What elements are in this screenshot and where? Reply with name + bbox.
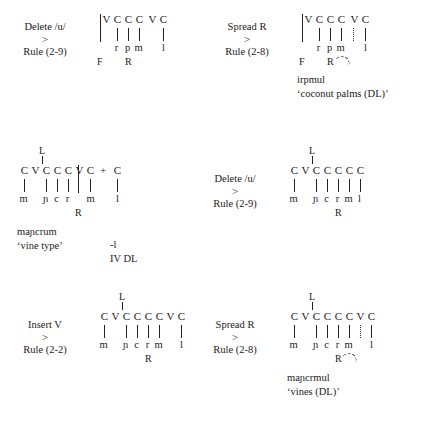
segment: l: [159, 43, 168, 54]
suffix-annotation-step-3: -l IV DL: [110, 238, 138, 266]
skeleton-slot: C: [312, 165, 321, 176]
association-line: [159, 325, 160, 338]
skeleton-slot: C: [64, 165, 73, 176]
rule-arrow-icon: >: [196, 185, 274, 198]
skeleton-slot: C: [326, 14, 335, 25]
segment: m: [134, 43, 143, 54]
segment: m: [154, 340, 163, 351]
association-line: [163, 28, 164, 41]
segment: c: [322, 194, 331, 205]
skeleton-slot: V: [356, 311, 365, 322]
association-line: [78, 165, 79, 193]
tier-stem: [42, 156, 43, 164]
rule-name: Spread R: [196, 319, 274, 331]
association-line: [68, 179, 69, 192]
skeleton-slot: V: [111, 311, 120, 322]
segment: ɲ: [311, 194, 320, 205]
rule-label-step-1: Delete /u/ > Rule (2-9): [6, 8, 84, 59]
segment: r: [333, 194, 342, 205]
association-line: [90, 179, 91, 192]
segment: m: [344, 340, 353, 351]
concatenation-plus: +: [100, 165, 106, 176]
segment: m: [19, 194, 28, 205]
derivation-step-3: L C V C C C V C + C: [16, 146, 196, 253]
skeleton-tier-step-6: C V C C C C V C: [286, 311, 411, 324]
rule-label-step-2: Spread R > Rule (2-8): [208, 8, 286, 59]
top-tier-step-4: L: [286, 146, 396, 165]
rule-name: Delete /u/: [196, 173, 274, 185]
tier-marker-r: R: [335, 208, 342, 218]
association-lines-step-6: [286, 324, 411, 340]
segment: l: [355, 194, 364, 205]
surface-form: maɲcrum: [17, 225, 196, 239]
skeleton-tier-step-3: C V C C C V C + C: [16, 165, 196, 178]
segment: l: [361, 43, 370, 54]
skeleton-slot: C: [345, 165, 354, 176]
tier-marker-l: L: [309, 292, 315, 302]
skeleton-slot: C: [155, 311, 164, 322]
segment: ɲ: [121, 340, 130, 351]
suffix-morpheme: -l: [110, 238, 138, 252]
skeleton-slot: C: [144, 311, 153, 322]
association-line: [360, 179, 361, 192]
association-line: [128, 28, 129, 41]
tier-marker-r: R: [75, 208, 82, 218]
diagram-step-4: L C V C C C C C m ɲ: [286, 146, 396, 222]
diagram-step-2: V C C C V C r p m l F: [296, 8, 411, 101]
skeleton-slot: C: [361, 14, 370, 25]
tier-marker-r: R: [125, 57, 132, 67]
derivation-step-6: Spread R > Rule (2-8) L C V C C C C V C: [196, 292, 411, 399]
association-line: [327, 325, 328, 338]
spread-hook-icon: [343, 352, 357, 365]
segment: r: [63, 194, 72, 205]
skeleton-slot: C: [133, 311, 142, 322]
association-line: [181, 325, 182, 338]
association-line: [104, 325, 105, 338]
skeleton-slot: V: [301, 311, 310, 322]
output-form-step-2: irpmul ‘coconut palms (DL)’: [296, 73, 411, 101]
rule-arrow-icon: >: [196, 331, 274, 344]
association-line: [365, 28, 366, 41]
spread-hook-icon: [336, 55, 350, 68]
segment: m: [289, 194, 298, 205]
segment: p: [123, 43, 132, 54]
skeleton-slot: V: [350, 14, 359, 25]
skeleton-slot: V: [166, 311, 175, 322]
skeleton-slot: C: [100, 311, 109, 322]
tier-marker-r: R: [145, 354, 152, 364]
skeleton-tier-step-4: C V C C C C C: [286, 165, 396, 178]
derivation-step-2: Spread R > Rule (2-8) V C C C V C: [208, 8, 411, 101]
skeleton-slot: C: [367, 311, 376, 322]
segment: r: [333, 340, 342, 351]
rule-reference: Rule (2-9): [196, 198, 274, 210]
skeleton-slot: C: [86, 165, 95, 176]
diagram-step-6: L C V C C C C V C: [286, 292, 411, 399]
skeleton-slot: C: [323, 311, 332, 322]
association-line: [46, 179, 47, 192]
spread-association-line: [360, 325, 361, 338]
diagram-step-1: V C C C V C r p m l F: [94, 8, 204, 71]
skeleton-slot: C: [135, 14, 144, 25]
association-lines-step-3: [16, 178, 196, 194]
segment-tier-step-1: r p m l: [94, 43, 204, 57]
association-line: [139, 28, 140, 41]
skeleton-slot: C: [122, 311, 131, 322]
bottom-tier-step-2: F R: [296, 57, 411, 71]
skeleton-slot: C: [334, 311, 343, 322]
tier-marker-l: L: [309, 146, 315, 156]
rule-reference: Rule (2-8): [196, 344, 274, 356]
tier-marker-f: F: [299, 57, 305, 67]
skeleton-slot: C: [20, 165, 29, 176]
rule-arrow-icon: >: [208, 33, 286, 46]
skeleton-tier-step-1: V C C C V C: [94, 14, 204, 27]
skeleton-tier-step-2: V C C C V C: [296, 14, 411, 27]
rule-label-step-5: Insert V > Rule (2-2): [6, 292, 84, 357]
skeleton-slot: C: [290, 311, 299, 322]
skeleton-slot: C: [290, 165, 299, 176]
segment: l: [177, 340, 186, 351]
bottom-tier-step-1: F R: [94, 57, 204, 71]
tier-marker-l: L: [39, 146, 45, 156]
association-line: [338, 325, 339, 338]
rule-label-step-4: Delete /u/ > Rule (2-9): [196, 146, 274, 211]
segment: ɲ: [41, 194, 50, 205]
